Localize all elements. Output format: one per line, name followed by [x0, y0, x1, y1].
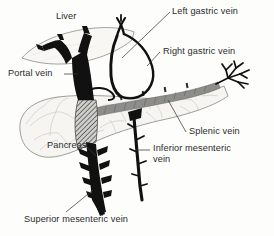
superior-mesenteric-vein: [78, 142, 112, 216]
label-superior-mesenteric-vein: Superior mesenteric vein: [24, 214, 128, 225]
label-liver: Liver: [56, 11, 76, 22]
label-left-gastric-vein: Left gastric vein: [172, 6, 238, 17]
anatomy-figure: Liver Left gastric vein Right gastric ve…: [0, 0, 274, 236]
label-right-gastric-vein: Right gastric vein: [163, 46, 235, 57]
label-inferior-mesenteric-vein: Inferior mesenteric vein: [153, 143, 249, 165]
label-portal-vein: Portal vein: [8, 68, 53, 79]
leader-smv: [66, 190, 93, 212]
label-splenic-vein: Splenic vein: [189, 126, 240, 137]
gastric-vein-loop: [111, 15, 153, 98]
label-pancreas: Pancreas: [47, 140, 87, 151]
splenic-hilar-branches: [216, 61, 249, 88]
anatomy-diagram: [0, 0, 274, 236]
